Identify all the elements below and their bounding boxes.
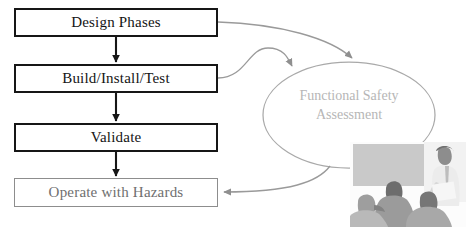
- process-box-label: Validate: [91, 130, 142, 145]
- assessment-arrow-assessment-to-operate: [224, 166, 330, 192]
- process-box-operate-with-hazards[interactable]: Operate with Hazards: [14, 178, 218, 207]
- process-box-design-phases[interactable]: Design Phases: [14, 8, 218, 37]
- process-box-label: Design Phases: [71, 15, 161, 30]
- diagram-canvas: Design Phases Build/Install/Test Validat…: [0, 0, 469, 229]
- process-box-build-install-test[interactable]: Build/Install/Test: [14, 64, 218, 93]
- assessment-arrow-design-to-assessment: [218, 22, 352, 58]
- assessment-meeting-photo: [350, 142, 466, 227]
- assessment-arrow-build-to-assessment: [218, 48, 292, 78]
- process-box-label: Build/Install/Test: [62, 71, 170, 86]
- process-box-label: Operate with Hazards: [49, 185, 184, 200]
- process-box-validate[interactable]: Validate: [14, 123, 218, 152]
